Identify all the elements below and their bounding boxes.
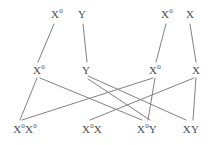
edge-g2-to-o3 [88, 76, 186, 120]
edge-g1-to-o1 [20, 78, 37, 120]
node-label-g1: X0 [33, 65, 45, 76]
node-label-o1: X0X0 [13, 124, 37, 135]
node-label-p1-right: Y [78, 9, 86, 20]
edge-p2-right-to-g4 [190, 24, 196, 62]
node-label-p1-left: X0 [51, 9, 63, 20]
edge-p2-left-to-g3 [156, 24, 166, 62]
edge-g3-to-o1 [22, 78, 153, 120]
edge-p1-left-to-g1 [38, 24, 54, 62]
node-label-o2: X0X [82, 124, 102, 135]
node-label-p2-right: X [186, 9, 194, 20]
node-label-o4: XY [183, 124, 199, 135]
node-label-o3: X0Y [137, 124, 157, 135]
node-label-g3: X0 [149, 65, 161, 76]
edge-g3-to-o3 [148, 78, 155, 120]
node-label-g2: Y [82, 65, 90, 76]
edge-p1-right-to-g2 [83, 24, 87, 62]
edge-g1-to-o2 [40, 78, 142, 120]
node-label-g4: X [192, 65, 200, 76]
node-label-p2-left: X0 [161, 9, 173, 20]
inheritance-diagram: X0YX0XX0YX0XX0X0X0XX0YXY [0, 0, 215, 145]
edge-g4-to-o4 [193, 78, 196, 120]
